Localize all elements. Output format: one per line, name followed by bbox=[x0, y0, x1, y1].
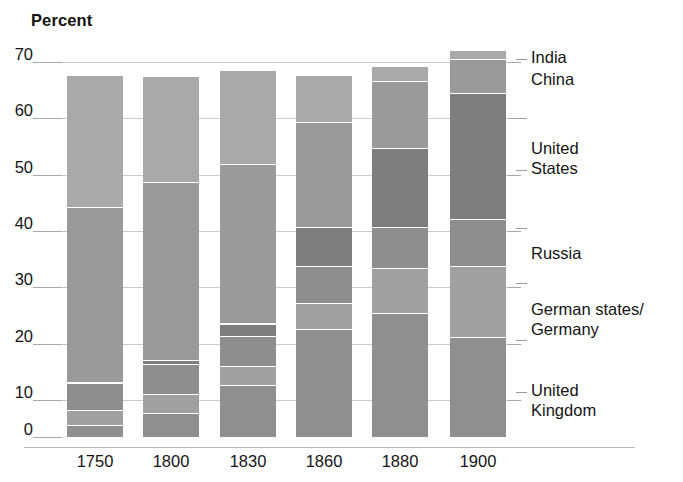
bar-segment-1750-german-states-germany bbox=[67, 411, 123, 427]
bar-segment-1830-india bbox=[220, 71, 276, 165]
x-axis-line bbox=[24, 447, 635, 448]
gridline-40 bbox=[62, 231, 517, 232]
ytick-label-40: 40 bbox=[0, 214, 33, 233]
bar-1830 bbox=[220, 0, 276, 437]
bar-segment-1880-china bbox=[372, 82, 428, 149]
ytick-label-70: 70 bbox=[0, 45, 33, 64]
bar-1900 bbox=[450, 0, 506, 437]
bar-segment-1800-russia bbox=[143, 365, 199, 395]
bar-1880 bbox=[372, 0, 428, 437]
tick-stub-left-40 bbox=[33, 231, 62, 232]
bar-segment-1800-german-states-germany bbox=[143, 395, 199, 414]
xtick-label-1800: 1800 bbox=[143, 452, 199, 471]
ytick-label-60: 60 bbox=[0, 101, 33, 120]
bar-segment-1830-united-states bbox=[220, 325, 276, 338]
gridline-50 bbox=[62, 175, 517, 176]
plot-area: 70 60 50 40 30 20 10 0 1750 1800 18 bbox=[0, 0, 683, 482]
bar-segment-1860-german-states-germany bbox=[296, 304, 352, 330]
bar-segment-1800-india bbox=[143, 77, 199, 183]
xtick-label-1880: 1880 bbox=[372, 452, 428, 471]
bar-segment-1880-russia bbox=[372, 228, 428, 269]
legend-leader-russia-top bbox=[516, 228, 527, 229]
tick-stub-left-20 bbox=[33, 344, 62, 345]
bar-segment-1830-german-states-germany bbox=[220, 367, 276, 386]
legend-label-german-states-germany: German states/ Germany bbox=[531, 300, 644, 339]
tick-stub-right-50 bbox=[508, 175, 521, 176]
tick-stub-right-20 bbox=[508, 344, 521, 345]
legend-leader-india bbox=[516, 59, 527, 60]
legend-leader-united-kingdom bbox=[516, 392, 527, 393]
tick-stub-right-30 bbox=[508, 287, 521, 288]
xtick-label-1900: 1900 bbox=[450, 452, 506, 471]
tick-stub-right-40 bbox=[508, 231, 521, 232]
bar-segment-1880-united-kingdom bbox=[372, 314, 428, 437]
xtick-label-1860: 1860 bbox=[296, 452, 352, 471]
bar-segment-1900-german-states-germany bbox=[450, 267, 506, 338]
bar-segment-1830-united-kingdom bbox=[220, 386, 276, 437]
bar-1800 bbox=[143, 0, 199, 437]
gridline-20 bbox=[62, 344, 517, 345]
bar-segment-1750-united-kingdom bbox=[67, 426, 123, 437]
ytick-label-10: 10 bbox=[0, 383, 33, 402]
bar-segment-1800-united-states bbox=[143, 361, 199, 365]
bar-segment-1860-united-kingdom bbox=[296, 330, 352, 437]
gridline-70 bbox=[62, 62, 517, 63]
legend-leader-russia-bottom bbox=[516, 283, 527, 284]
gridline-60 bbox=[62, 118, 517, 119]
bar-segment-1750-india bbox=[67, 76, 123, 207]
stacked-bar-chart: Percent 70 60 50 40 30 20 10 0 bbox=[0, 0, 683, 482]
xtick-label-1830: 1830 bbox=[220, 452, 276, 471]
ytick-label-20: 20 bbox=[0, 327, 33, 346]
bar-segment-1860-india bbox=[296, 76, 352, 122]
legend-label-china: China bbox=[531, 70, 574, 90]
bar-segment-1860-russia bbox=[296, 267, 352, 305]
legend-label-united-kingdom: United Kingdom bbox=[531, 381, 596, 420]
bar-segment-1750-russia bbox=[67, 384, 123, 411]
tick-stub-left-60 bbox=[33, 118, 62, 119]
bar-segment-1750-united-states bbox=[67, 383, 123, 384]
bar-segment-1830-china bbox=[220, 165, 276, 325]
bar-segment-1900-united-states bbox=[450, 94, 506, 220]
tick-stub-left-30 bbox=[33, 287, 62, 288]
bar-segment-1880-united-states bbox=[372, 149, 428, 228]
legend-label-united-states: United States bbox=[531, 139, 579, 178]
bar-segment-1880-india bbox=[372, 67, 428, 82]
gridline-30 bbox=[62, 287, 517, 288]
legend-leader-china-bound bbox=[516, 118, 527, 119]
bar-segment-1860-china bbox=[296, 123, 352, 229]
bar-segment-1900-russia bbox=[450, 220, 506, 267]
bar-segment-1800-china bbox=[143, 183, 199, 361]
tick-stub-left-50 bbox=[33, 175, 62, 176]
bar-segment-1830-russia bbox=[220, 337, 276, 367]
ytick-label-30: 30 bbox=[0, 270, 33, 289]
bar-segment-1750-china bbox=[67, 208, 123, 384]
tick-stub-left-0 bbox=[33, 437, 62, 438]
tick-stub-right-70 bbox=[508, 62, 521, 63]
bar-segment-1860-united-states bbox=[296, 228, 352, 267]
legend-label-russia: Russia bbox=[531, 244, 581, 264]
bar-1860 bbox=[296, 0, 352, 437]
bar-segment-1900-united-kingdom bbox=[450, 338, 506, 437]
tick-stub-left-10 bbox=[33, 400, 62, 401]
bar-segment-1800-united-kingdom bbox=[143, 414, 199, 437]
legend-leader-united-states bbox=[516, 170, 527, 171]
bar-segment-1900-india bbox=[450, 51, 506, 60]
tick-stub-right-10 bbox=[508, 400, 521, 401]
bar-segment-1880-german-states-germany bbox=[372, 269, 428, 315]
legend-label-india: India bbox=[531, 48, 567, 68]
ytick-label-0: 0 bbox=[0, 420, 33, 439]
xtick-label-1750: 1750 bbox=[67, 452, 123, 471]
tick-stub-left-70 bbox=[33, 62, 62, 63]
ytick-label-50: 50 bbox=[0, 158, 33, 177]
bar-segment-1900-china bbox=[450, 60, 506, 93]
bar-1750 bbox=[67, 0, 123, 437]
legend-leader-german-states bbox=[516, 340, 527, 341]
gridline-10 bbox=[62, 400, 517, 401]
